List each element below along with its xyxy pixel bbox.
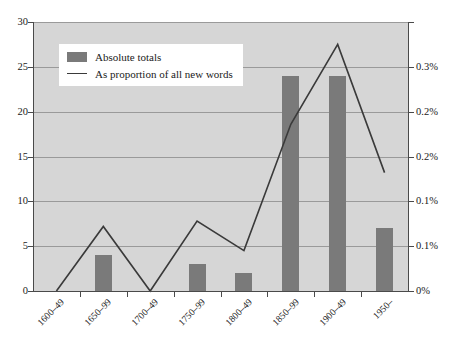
bar-swatch-icon [67, 52, 87, 62]
x-axis-tick [174, 292, 175, 297]
y-axis-left-tick-label: 20 [18, 107, 29, 117]
y-axis-left-tick [28, 112, 33, 113]
x-axis-tick [80, 292, 81, 297]
y-axis-right-tick [409, 291, 414, 292]
y-axis-right-tick-label: 0.1% [416, 241, 438, 251]
y-axis-right-tick-label: 0.2% [416, 107, 438, 117]
x-axis-tick-label: 1650–99 [82, 297, 113, 328]
x-axis-tick [127, 292, 128, 297]
y-axis-left-tick [28, 201, 33, 202]
y-axis-left-tick-label: 0 [23, 286, 28, 296]
x-axis-tick-label: 1600–49 [35, 297, 66, 328]
y-axis-right-tick-label: 0.3% [416, 62, 438, 72]
y-axis-left-tick-label: 25 [18, 62, 29, 72]
y-axis-right-tick-label: 0% [416, 286, 430, 296]
y-axis-right-tick [409, 112, 414, 113]
y-axis-right-tick [409, 67, 414, 68]
x-axis-tick [361, 292, 362, 297]
y-axis-left-tick [28, 22, 33, 23]
y-axis-right-tick [409, 22, 414, 23]
y-axis-left-line [33, 22, 34, 292]
y-axis-left-tick-label: 30 [18, 17, 29, 27]
y-axis-right-tick-label: 0.1% [416, 196, 438, 206]
x-axis-tick-label: 1700–49 [129, 297, 160, 328]
y-axis-right-tick-label: 0.2% [416, 152, 438, 162]
legend-item-proportion: As proportion of all new words [67, 66, 233, 81]
line-swatch-icon [67, 73, 87, 74]
y-axis-right-tick [409, 157, 414, 158]
legend-item-absolute-totals: Absolute totals [67, 49, 233, 64]
y-axis-left-tick [28, 246, 33, 247]
y-axis-left-tick-label: 15 [18, 152, 29, 162]
y-axis-right-tick [409, 246, 414, 247]
legend-label: As proportion of all new words [95, 68, 233, 80]
chart-legend: Absolute totals As proportion of all new… [59, 44, 243, 86]
x-axis-tick [221, 292, 222, 297]
x-axis-tick [267, 292, 268, 297]
y-axis-right-tick [409, 201, 414, 202]
x-axis-tick-label: 1750–99 [176, 297, 207, 328]
x-axis-tick [314, 292, 315, 297]
legend-label: Absolute totals [95, 51, 161, 63]
x-axis-tick-label: 1800–49 [223, 297, 254, 328]
x-axis-tick-label: 1950– [371, 297, 395, 321]
y-axis-left-tick [28, 157, 33, 158]
x-axis-tick-label: 1850–99 [270, 297, 301, 328]
y-axis-left-tick [28, 67, 33, 68]
x-axis-tick-label: 1900–49 [317, 297, 348, 328]
y-axis-left-tick [28, 291, 33, 292]
chart-container: 051015202530 0%0.1%0.1%0.2%0.2%0.3% 1600… [0, 0, 452, 338]
y-axis-left-tick-label: 10 [18, 196, 29, 206]
y-axis-left-tick-label: 5 [23, 241, 28, 251]
